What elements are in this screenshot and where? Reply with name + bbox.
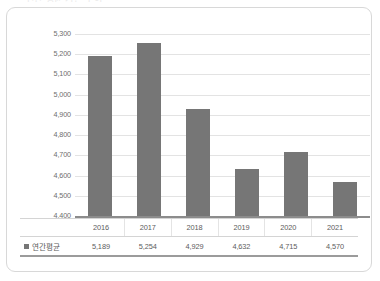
data-table-value: 4,570 [311, 237, 358, 256]
x-axis-category-label: 2017 [124, 218, 171, 237]
legend-series-label-cell: 연간평균 [20, 237, 77, 256]
x-axis-category-label: 2018 [171, 218, 218, 237]
data-table-value: 5,189 [77, 237, 124, 256]
y-axis-tick-label: 4,900 [37, 111, 71, 118]
y-axis-tick-label: 4,500 [37, 192, 71, 199]
y-axis-tick-label: 5,300 [37, 30, 71, 37]
y-axis-tick-label: 4,600 [37, 172, 71, 179]
data-table-value: 4,929 [171, 237, 218, 256]
x-axis-category-row: 201620172018201920202021 [7, 218, 371, 237]
x-axis-category-label: 2020 [264, 218, 311, 237]
y-axis-tick-label: 4,800 [37, 132, 71, 139]
x-axis-category-label: 2016 [77, 218, 124, 237]
x-axis-category-label: 2021 [311, 218, 358, 237]
x-axis-row-corner [20, 218, 77, 237]
column-separator [171, 219, 172, 236]
chart-screenshot: 연간 평균 기온 추이 5,3005,2005,1005,0004,9004,8… [0, 0, 380, 281]
data-table-row: 연간평균5,1895,2544,9294,6324,7154,570 [7, 237, 371, 256]
chart-card: 5,3005,2005,1005,0004,9004,8004,7004,600… [6, 7, 372, 272]
x-axis-category-label: 2019 [217, 218, 264, 237]
clipped-header-text: 연간 평균 기온 추이 [26, 0, 102, 2]
bar [186, 109, 210, 216]
bar [137, 43, 161, 216]
y-axis: 5,3005,2005,1005,0004,9004,8004,7004,600… [37, 34, 71, 216]
data-table-value: 5,254 [124, 237, 171, 256]
column-separator [264, 219, 265, 236]
column-separator [311, 219, 312, 236]
data-table-value: 4,632 [217, 237, 264, 256]
bar [235, 169, 259, 216]
legend-swatch-icon [24, 244, 29, 249]
column-separator [124, 219, 125, 236]
y-axis-tick-label: 5,200 [37, 51, 71, 58]
x-axis-cells: 201620172018201920202021 [20, 218, 358, 237]
bar [88, 56, 112, 216]
column-separator [218, 219, 219, 236]
y-axis-tick-label: 4,700 [37, 152, 71, 159]
bar [333, 182, 357, 216]
plot-area: 5,3005,2005,1005,0004,9004,8004,7004,600… [7, 8, 371, 220]
legend-series-label: 연간평균 [32, 241, 60, 252]
bar-series [75, 34, 370, 216]
y-axis-tick-label: 5,100 [37, 71, 71, 78]
y-axis-tick-label: 5,000 [37, 91, 71, 98]
data-table-cells: 연간평균5,1895,2544,9294,6324,7154,570 [20, 237, 358, 256]
data-table-value: 4,715 [264, 237, 311, 256]
bar [284, 152, 308, 216]
